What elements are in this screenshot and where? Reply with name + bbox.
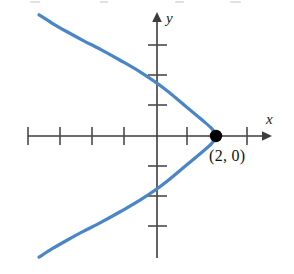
y-axis-label: y — [166, 11, 173, 26]
y-axis-arrowhead — [152, 12, 162, 22]
vertex-point-label: (2, 0) — [209, 147, 245, 165]
parabola-figure: x y (2, 0) — [0, 0, 294, 274]
vertex-point-marker — [210, 130, 222, 142]
x-axis-label: x — [266, 112, 273, 127]
x-axis-arrowhead — [262, 131, 272, 141]
y-axis — [148, 12, 167, 258]
plot-canvas — [0, 0, 294, 274]
x-axis — [28, 127, 272, 145]
